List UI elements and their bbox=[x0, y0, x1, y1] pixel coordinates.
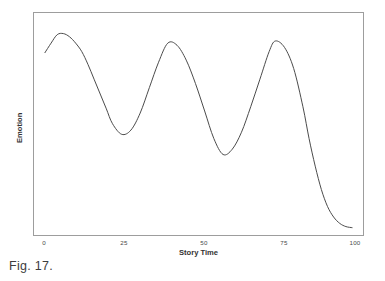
x-axis-title: Story Time bbox=[33, 248, 364, 258]
xtick-label-100: 100 bbox=[350, 239, 361, 247]
emotion-series-line bbox=[45, 33, 352, 227]
figure-caption: Fig. 17. bbox=[9, 258, 53, 274]
xtick-label-25: 25 bbox=[120, 239, 127, 247]
xtick-label-50: 50 bbox=[200, 239, 207, 247]
y-axis-title: Emotion bbox=[14, 98, 26, 158]
plot-area bbox=[33, 12, 364, 236]
figure-container: 0 25 50 75 100 Story Time Emotion Fig. 1… bbox=[0, 0, 385, 281]
xtick-label-0: 0 bbox=[42, 239, 46, 247]
emotion-story-time-line-chart bbox=[34, 13, 363, 235]
xtick-label-75: 75 bbox=[280, 239, 287, 247]
